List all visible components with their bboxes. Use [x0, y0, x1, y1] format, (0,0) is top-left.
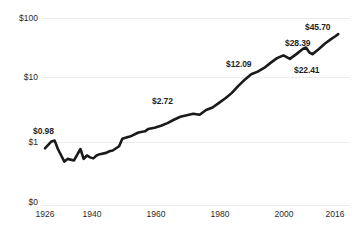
annotation-22-41: $22.41 — [294, 65, 319, 75]
annotation-2-72: $2.72 — [152, 96, 173, 106]
chart-container: $100 $10 $1 $0 1926 1940 1960 1980 2000 … — [0, 0, 354, 235]
annotation-28-39: $28.39 — [285, 38, 310, 48]
annotation-0-98: $0.98 — [33, 126, 54, 136]
series-line-growth-of-1 — [0, 0, 354, 235]
annotation-12-09: $12.09 — [226, 59, 251, 69]
annotation-45-70: $45.70 — [305, 22, 330, 32]
